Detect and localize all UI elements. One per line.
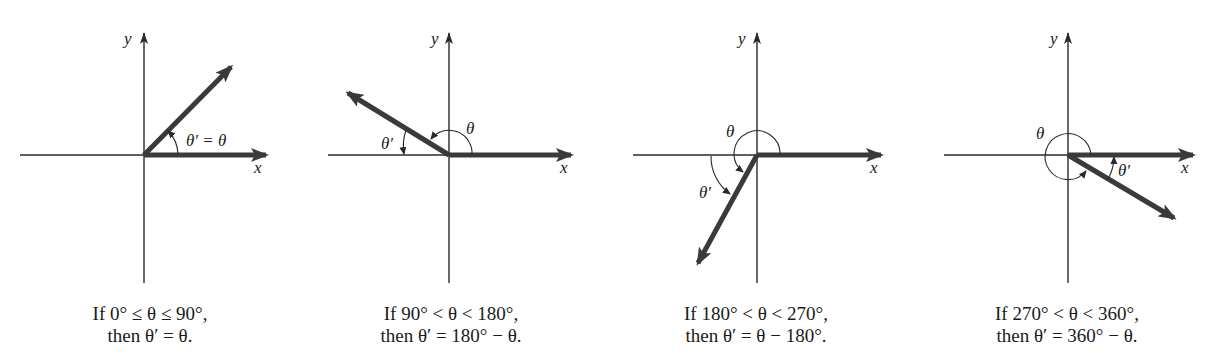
caption-condition: If 180° < θ < 270°, [606,303,906,325]
x-axis-label: x [559,158,568,177]
terminal-side-ray [348,93,449,155]
theta-prime-arc [1108,157,1114,179]
y-axis-label: y [429,29,439,48]
caption-result: then θ′ = 360° − θ. [917,325,1216,347]
caption-result: then θ′ = 180° − θ. [301,325,601,347]
caption-condition: If 0° ≤ θ ≤ 90°, [0,303,300,325]
theta-prime-arc [403,130,406,154]
theta-label: θ [466,119,474,138]
theta-arc [168,131,178,155]
x-axis-label: x [253,158,262,177]
caption-result: then θ′ = θ. [0,325,300,347]
caption-condition: If 270° < θ < 360°, [917,303,1216,325]
y-axis-label: y [736,29,746,48]
caption-quadrant-1: If 0° ≤ θ ≤ 90°, then θ′ = θ. [0,303,300,347]
panel-quadrant-4: y x θ θ′ [944,29,1193,283]
y-axis-label: y [122,29,132,48]
y-axis-label: y [1048,29,1058,48]
caption-result: then θ′ = θ − 180°. [606,325,906,347]
caption-quadrant-2: If 90° < θ < 180°, then θ′ = 180° − θ. [301,303,601,347]
terminal-side-ray [698,155,757,263]
caption-quadrant-3: If 180° < θ < 270°, then θ′ = θ − 180°. [606,303,906,347]
theta-prime-label: θ′ [381,134,393,153]
x-axis-label: x [1180,158,1189,177]
caption-quadrant-4: If 270° < θ < 360°, then θ′ = 360° − θ. [917,303,1216,347]
theta-label: θ [1036,124,1044,143]
panel-quadrant-3: y x θ θ′ [633,29,881,283]
theta-prime-label: θ′ [1118,161,1130,180]
panel-quadrant-1: y x θ′ = θ [20,29,266,283]
theta-label: θ [726,122,734,141]
angle-label: θ′ = θ [186,131,226,150]
x-axis-label: x [869,158,878,177]
theta-prime-label: θ′ [699,183,711,202]
caption-condition: If 90° < θ < 180°, [301,303,601,325]
theta-prime-arc [711,156,730,194]
panel-quadrant-2: y x θ θ′ [328,29,571,283]
